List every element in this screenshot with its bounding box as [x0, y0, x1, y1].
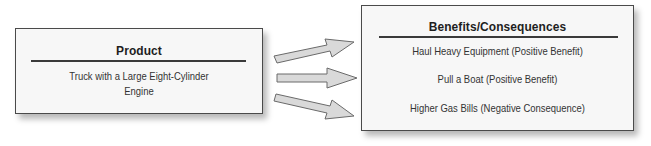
consequence-item: Higher Gas Bills (Negative Consequence): [376, 101, 620, 116]
arrow-to-pull-a-boat-icon: [277, 68, 357, 88]
arrow-to-higher-gas-bills-icon: [274, 94, 354, 119]
benefit-item: Pull a Boat (Positive Benefit): [376, 72, 620, 87]
benefits-box: Benefits/Consequences Haul Heavy Equipme…: [361, 5, 634, 131]
product-title: Product: [26, 43, 252, 58]
benefits-divider: [379, 36, 618, 38]
product-divider: [31, 60, 246, 62]
benefits-title: Benefits/Consequences: [373, 19, 622, 34]
benefit-item: Haul Heavy Equipment (Positive Benefit): [376, 44, 620, 59]
product-box: Product Truck with a Large Eight-Cylinde…: [15, 28, 263, 114]
product-description-line2: Engine: [28, 84, 249, 99]
product-description-line1: Truck with a Large Eight-Cylinder: [28, 69, 249, 84]
arrow-to-haul-heavy-equipment-icon: [274, 39, 354, 63]
